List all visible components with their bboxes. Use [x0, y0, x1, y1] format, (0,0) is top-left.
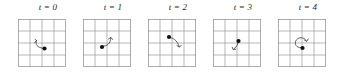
grid-svg: [213, 19, 261, 67]
timestep-panel: t = 4: [274, 0, 339, 76]
timestep-label: t = 4: [283, 1, 333, 13]
timestep-label: t = 0: [23, 1, 73, 13]
grid-world: [83, 19, 131, 67]
agent-dot: [42, 46, 46, 50]
agent-dot: [167, 35, 171, 39]
timestep-panel: t = 2: [144, 0, 209, 76]
grid-svg: [83, 19, 131, 67]
grid-svg: [18, 19, 66, 67]
grid-svg: [278, 19, 326, 67]
timestep-label: t = 3: [218, 1, 268, 13]
agent-dot: [236, 39, 240, 43]
motion-arrow-path: [234, 43, 239, 50]
timestep-label: t = 1: [88, 1, 138, 13]
grid-world: [18, 19, 66, 67]
motion-arrow-path: [295, 38, 306, 48]
agent-dot: [100, 45, 104, 49]
grid-world: [148, 19, 196, 67]
agent-dot: [300, 46, 304, 50]
grid-svg: [148, 19, 196, 67]
grid-world: [278, 19, 326, 67]
grid-world: [213, 19, 261, 67]
timestep-sequence-figure: t = 0t = 1t = 2t = 3t = 4: [0, 0, 341, 76]
timestep-panel: t = 1: [79, 0, 144, 76]
timestep-panel: t = 0: [14, 0, 79, 76]
timestep-label: t = 2: [153, 1, 203, 13]
timestep-panel: t = 3: [209, 0, 274, 76]
